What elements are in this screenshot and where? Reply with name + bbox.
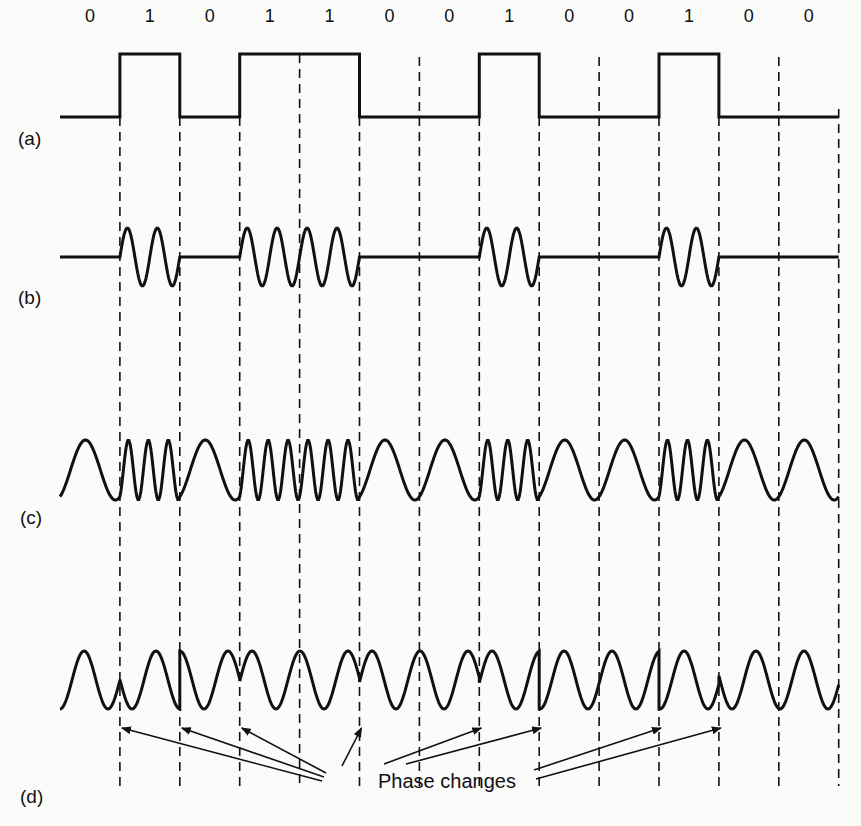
bit-label: 0 — [384, 6, 394, 27]
bit-label: 1 — [145, 6, 155, 27]
bit-label: 0 — [564, 6, 574, 27]
panel-label-a: (a) — [18, 128, 41, 150]
bit-label: 0 — [85, 6, 95, 27]
phase-change-arrow — [536, 728, 721, 779]
amplitude-modulation-waveform — [60, 228, 839, 286]
phase-change-arrow — [182, 728, 324, 777]
bit-label: 1 — [325, 6, 335, 27]
modulation-diagram — [0, 0, 861, 826]
panel-label-d: (d) — [20, 786, 43, 808]
bit-label: 1 — [684, 6, 694, 27]
bit-label: 1 — [504, 6, 514, 27]
frequency-modulation-waveform — [60, 440, 839, 500]
bit-label: 1 — [265, 6, 275, 27]
bit-label: 0 — [624, 6, 634, 27]
binary-signal-waveform — [60, 54, 839, 117]
bit-label: 0 — [744, 6, 754, 27]
bit-label: 0 — [804, 6, 814, 27]
bit-label: 0 — [205, 6, 215, 27]
phase-changes-label: Phase changes — [378, 770, 516, 793]
phase-change-arrow — [406, 728, 541, 764]
bit-label: 0 — [444, 6, 454, 27]
phase-change-arrow — [342, 728, 362, 766]
panel-label-c: (c) — [20, 507, 42, 529]
phase-change-arrow — [384, 728, 481, 764]
panel-label-b: (b) — [18, 287, 41, 309]
phase-modulation-waveform — [60, 651, 839, 709]
phase-change-arrow — [242, 728, 326, 773]
